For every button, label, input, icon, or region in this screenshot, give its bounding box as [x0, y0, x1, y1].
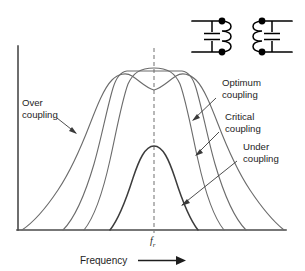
svg-text:fr: fr	[150, 235, 156, 249]
leader-critical-coupling	[195, 132, 219, 156]
label-under-coupling-line1: Under	[243, 141, 270, 152]
label-optimum-coupling-line1: Optimum	[222, 77, 261, 88]
leader-over-coupling	[57, 118, 77, 134]
right-tank-circuit	[253, 18, 292, 56]
label-optimum-coupling-line2: coupling	[222, 89, 258, 100]
label-critical-coupling-line2: coupling	[225, 123, 261, 134]
label-critical-coupling-line1: Critical	[225, 111, 254, 122]
left-tank-circuit	[192, 18, 231, 56]
coupling-response-figure: Over coupling Optimum coupling Critical …	[0, 0, 305, 271]
axes-group	[17, 46, 286, 230]
node-top-left	[219, 18, 226, 25]
label-over-coupling-line1: Over	[22, 97, 44, 108]
node-top-right	[259, 18, 266, 25]
fr-subscript: r	[153, 241, 156, 249]
resonance-frequency-label: fr	[150, 235, 156, 249]
node-bottom-left	[219, 49, 226, 56]
node-bottom-right	[259, 49, 266, 56]
x-axis-title-group: Frequency	[80, 255, 186, 266]
curve-optimum-coupling	[63, 71, 246, 230]
x-axis-title: Frequency	[80, 255, 127, 266]
label-over-coupling-line2: coupling	[22, 109, 58, 120]
circuit-inset	[192, 18, 292, 56]
label-under-coupling-line2: coupling	[243, 153, 279, 164]
right-arrow-icon	[138, 256, 186, 265]
